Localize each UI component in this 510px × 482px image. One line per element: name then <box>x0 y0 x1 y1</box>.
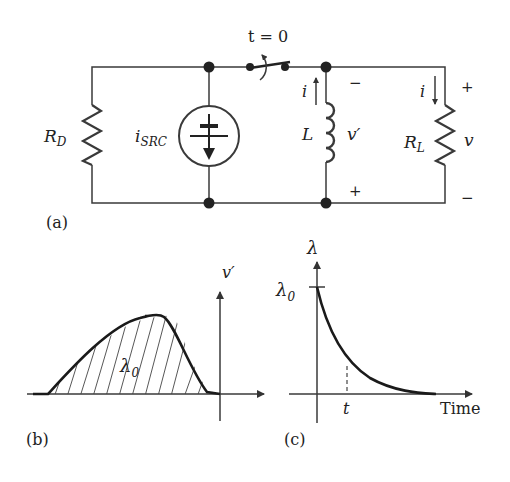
x-axis-label: Time <box>440 399 480 418</box>
plot-c: λ λ0 t Time (c) <box>275 237 480 449</box>
lambda0-annotation: λ0 <box>119 355 139 380</box>
panel-label-a: (a) <box>46 213 68 232</box>
node-dot <box>321 62 332 73</box>
node-dot <box>321 198 332 209</box>
inductor-icon <box>326 103 334 162</box>
rd-label: RD <box>43 126 67 149</box>
rl-minus: − <box>461 189 474 207</box>
rl-plus: + <box>461 78 474 96</box>
inductor-current-label: i <box>302 82 307 101</box>
panel-label-b: (b) <box>26 430 49 449</box>
hatch-area <box>40 305 221 400</box>
rl-current-label: i <box>420 82 425 101</box>
rl-voltage-label: v <box>464 130 474 150</box>
resistor-rd-icon <box>83 105 101 165</box>
wire-top-left <box>92 67 250 105</box>
node-dot <box>204 198 215 209</box>
rl-label: RL <box>403 132 425 155</box>
node-dot <box>204 62 215 73</box>
lambda0-tick-label: λ0 <box>275 279 295 304</box>
inductor-plus: + <box>349 182 362 200</box>
panel-label-c: (c) <box>284 430 305 449</box>
t-tick-label: t <box>343 399 350 418</box>
y-axis-label: λ <box>306 237 318 258</box>
y-axis-label: v′ <box>222 263 235 282</box>
inductor-label: L <box>301 124 313 144</box>
isrc-label: iSRC <box>135 126 167 149</box>
inductor-voltage-label: v′ <box>347 124 361 144</box>
switch-icon <box>246 55 290 80</box>
inductor-minus: − <box>349 74 362 92</box>
circuit-and-plots: RD iSRC t = 0 L v′ i − + RL v i + − <box>0 0 510 482</box>
figure: RD iSRC t = 0 L v′ i − + RL v i + − <box>0 0 510 482</box>
switch-label: t = 0 <box>248 27 288 46</box>
flux-decay-curve <box>317 287 436 394</box>
wire-bottom <box>92 165 445 203</box>
resistor-rl-icon <box>436 105 454 165</box>
circuit: RD iSRC t = 0 L v′ i − + RL v i + − <box>43 27 474 232</box>
plot-b: λ0 v′ (b) <box>26 263 264 449</box>
